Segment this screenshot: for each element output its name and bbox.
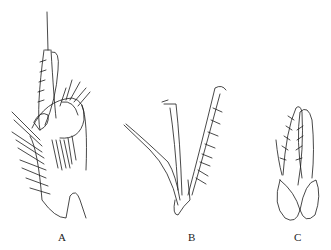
panel-label-b: B <box>188 231 195 243</box>
panel-b-drawing <box>124 86 226 215</box>
line-drawing <box>0 0 331 250</box>
panel-label-a: A <box>58 231 66 243</box>
panel-c-drawing <box>276 107 319 221</box>
panel-label-c: C <box>294 231 301 243</box>
panel-a-drawing <box>12 12 90 218</box>
figure-canvas: A B C <box>0 0 331 250</box>
